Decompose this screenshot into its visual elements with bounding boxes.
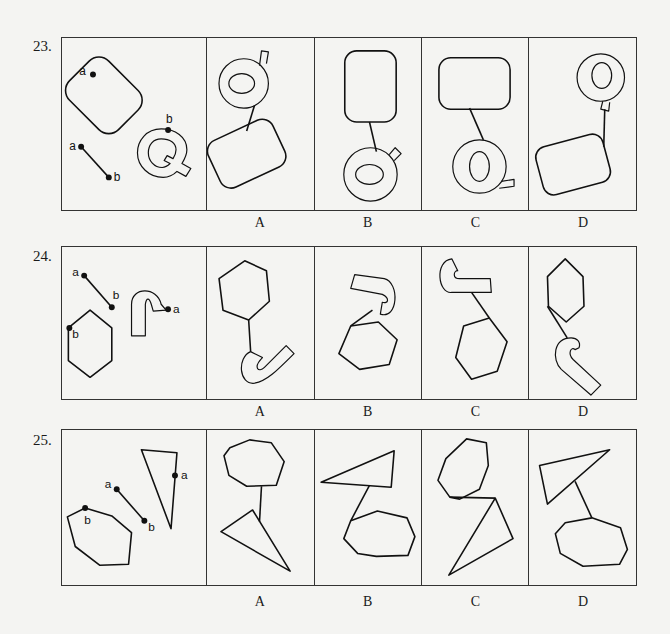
svg-text:a: a — [181, 468, 188, 482]
triangle-shape — [449, 498, 513, 575]
option-label-a[interactable]: A — [206, 594, 314, 610]
triangle-shape — [540, 450, 610, 504]
option-label-b[interactable]: B — [314, 215, 422, 231]
rounded-rectangle-shape — [533, 132, 613, 198]
hexagon-shape — [219, 261, 269, 320]
option-label-a[interactable]: A — [206, 215, 314, 231]
svg-text:a: a — [79, 64, 86, 78]
hook-shape — [555, 338, 600, 395]
rounded-rectangle-shape — [62, 51, 148, 139]
svg-text:b: b — [84, 513, 91, 527]
option-label-d[interactable]: D — [529, 404, 637, 420]
question-24-option-d[interactable] — [529, 247, 636, 399]
option-label-d[interactable]: D — [529, 215, 637, 231]
question-24-option-a[interactable] — [207, 247, 315, 399]
hook-shape — [440, 259, 491, 293]
octagon-shape — [555, 518, 627, 566]
question-23-option-labels: A B C D — [206, 215, 637, 231]
svg-text:b: b — [114, 170, 121, 184]
option-label-c[interactable]: C — [422, 215, 530, 231]
question-25-option-d[interactable] — [529, 430, 636, 585]
option-label-b[interactable]: B — [314, 404, 422, 420]
octagon-shape — [344, 511, 415, 556]
question-23-option-d[interactable] — [529, 38, 636, 210]
question-24-option-c[interactable] — [422, 247, 529, 399]
question-25-option-b[interactable] — [315, 430, 422, 585]
option-label-c[interactable]: C — [422, 594, 530, 610]
hexagon-shape — [339, 322, 397, 369]
question-25-given-figure: a a b b — [62, 430, 207, 585]
question-23-given-figure: a a b b — [62, 38, 207, 210]
question-number-23: 23. — [33, 38, 52, 55]
hexagon-shape — [547, 259, 584, 322]
option-label-d[interactable]: D — [529, 594, 637, 610]
octagon-shape — [438, 439, 488, 499]
letter-q-shape — [219, 51, 268, 108]
question-25-grid: a a b b — [61, 429, 637, 586]
question-25-option-c[interactable] — [422, 430, 529, 585]
svg-text:a: a — [69, 139, 76, 153]
letter-q-shape — [137, 129, 190, 177]
hook-shape — [132, 291, 167, 336]
question-number-25: 25. — [33, 432, 52, 449]
triangle-shape — [141, 450, 177, 529]
question-25-option-labels: A B C D — [206, 594, 637, 610]
option-label-b[interactable]: B — [314, 594, 422, 610]
question-number-24: 24. — [33, 248, 52, 265]
question-23-given-svg: a a b b — [62, 38, 206, 210]
hexagon-shape — [456, 318, 507, 379]
svg-text:b: b — [72, 327, 79, 341]
letter-q-shape — [453, 140, 514, 193]
question-23-option-b[interactable] — [315, 38, 422, 210]
question-23-grid: a a b b — [61, 37, 637, 211]
triangle-shape — [221, 510, 290, 571]
option-label-a[interactable]: A — [206, 404, 314, 420]
question-23-option-a[interactable] — [207, 38, 315, 210]
svg-text:b: b — [113, 288, 120, 302]
option-label-c[interactable]: C — [422, 404, 530, 420]
svg-text:b: b — [148, 520, 155, 534]
hook-shape — [241, 346, 294, 384]
question-24-option-labels: A B C D — [206, 404, 637, 420]
svg-text:b: b — [166, 112, 173, 126]
hexagon-shape — [68, 310, 111, 377]
letter-q-shape — [344, 148, 401, 201]
svg-text:a: a — [72, 265, 79, 279]
question-23-option-c[interactable] — [422, 38, 529, 210]
svg-text:a: a — [173, 302, 180, 316]
triangle-shape — [321, 451, 394, 488]
rounded-rectangle-shape — [439, 58, 510, 109]
rounded-rectangle-shape — [345, 51, 396, 122]
question-24-grid: a b b a — [61, 246, 637, 400]
question-24-option-a[interactable] — [207, 430, 315, 585]
hook-shape — [351, 275, 395, 315]
svg-text:a: a — [105, 477, 112, 491]
question-24-option-b[interactable] — [315, 247, 422, 399]
question-24-given-figure: a b b a — [62, 247, 207, 399]
octagon-shape — [67, 508, 131, 565]
octagon-shape — [224, 440, 284, 486]
letter-q-shape — [577, 54, 624, 111]
